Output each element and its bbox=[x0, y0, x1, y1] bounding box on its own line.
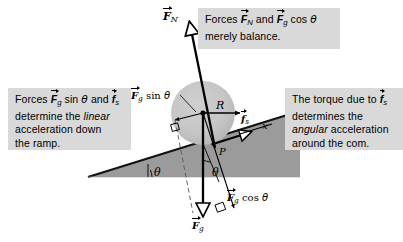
vector-symbol-Fg-callout-linear: F bbox=[51, 93, 58, 107]
vector-symbol-fs-callout-torque: f bbox=[380, 93, 384, 107]
callout-linear-prefix: Forces bbox=[15, 93, 51, 105]
callout-balance-conjunction: and bbox=[253, 13, 277, 25]
label-radius: R bbox=[216, 99, 224, 112]
vector-symbol-Fg-cos: F bbox=[227, 192, 234, 203]
label-vertical-angle: θ bbox=[212, 166, 219, 179]
callout-balance: Forces FN and Fg cos θ merely balance. bbox=[198, 8, 340, 49]
label-ramp-angle: θ bbox=[154, 166, 161, 179]
vector-subscript-Fg: g bbox=[199, 224, 204, 233]
callout-torque-line3-post: acceleration bbox=[328, 123, 389, 135]
callout-linear-line3: acceleration down bbox=[15, 123, 125, 137]
callout-linear-line2: determine the linear bbox=[15, 110, 125, 124]
vector-symbol-fs: f bbox=[241, 113, 245, 124]
callout-linear-line1: Forces Fg sin θ and fs bbox=[15, 93, 125, 110]
callout-torque-emphasis: angular bbox=[292, 123, 328, 135]
callout-linear-emphasis: linear bbox=[84, 110, 110, 122]
label-gravity-force: Fg bbox=[192, 220, 204, 233]
callout-linear-line4: the ramp. bbox=[15, 137, 125, 151]
callout-balance-trig: cos bbox=[288, 13, 311, 25]
vector-subscript-fs: s bbox=[245, 117, 249, 126]
vector-subscript-fs-callout-torque: s bbox=[383, 98, 387, 107]
label-friction-force: fs bbox=[241, 113, 249, 126]
callout-linear-conjunction: and bbox=[88, 93, 112, 105]
label-gravity-cos-component: Fg cos θ bbox=[227, 192, 268, 205]
callout-angular-acceleration: The torque due to fs determines the angu… bbox=[285, 88, 403, 150]
vector-symbol-Fg-sin: F bbox=[131, 90, 138, 101]
callout-linear-line2-prefix: determine the bbox=[15, 110, 84, 122]
callout-torque-line3: angular acceleration bbox=[292, 123, 397, 137]
trig-cos-text: cos bbox=[239, 192, 262, 203]
center-of-mass-dot bbox=[200, 110, 205, 115]
trig-sin-text: sin bbox=[143, 90, 164, 101]
callout-torque-line1: The torque due to fs bbox=[292, 93, 397, 110]
callout-linear-acceleration: Forces Fg sin θ and fs determine the lin… bbox=[8, 88, 131, 150]
vector-subscript-FN: N bbox=[171, 14, 178, 24]
label-contact-point: P bbox=[219, 146, 226, 157]
physics-diagram-figure: FN Fg sin θ R fs x P θ θ Fg cos θ Fg For… bbox=[0, 0, 403, 242]
vector-symbol-fs-callout-linear: f bbox=[112, 93, 116, 107]
contact-point-dot bbox=[211, 142, 214, 145]
callout-torque-line2: determines the bbox=[292, 110, 397, 124]
vector-symbol-FN-callout: F bbox=[241, 13, 248, 27]
theta-symbol-sin: θ bbox=[164, 90, 170, 101]
callout-balance-theta: θ bbox=[310, 13, 317, 25]
label-x-axis: x bbox=[262, 120, 268, 131]
callout-torque-prefix: The torque due to bbox=[292, 93, 380, 105]
callout-balance-line2: merely balance. bbox=[205, 30, 334, 44]
label-gravity-sin-component: Fg sin θ bbox=[131, 90, 170, 103]
vector-symbol-FN: F bbox=[163, 10, 171, 23]
callout-balance-prefix: Forces bbox=[205, 13, 241, 25]
vector-subscript-fs-callout-linear: s bbox=[115, 98, 119, 107]
theta-symbol-cos: θ bbox=[262, 192, 268, 203]
callout-torque-line4: around the com. bbox=[292, 137, 397, 151]
vector-symbol-Fg-callout-balance: F bbox=[277, 13, 284, 27]
vector-symbol-Fg: F bbox=[192, 220, 199, 231]
callout-balance-line1: Forces FN and Fg cos θ bbox=[205, 13, 334, 30]
label-normal-force: FN bbox=[163, 10, 178, 24]
callout-linear-trig: sin bbox=[62, 93, 82, 105]
